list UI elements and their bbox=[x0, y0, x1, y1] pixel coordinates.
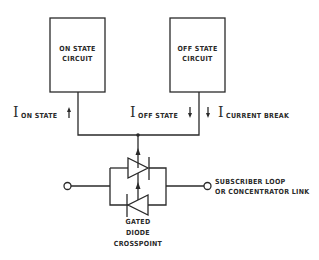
svg-text:ON STATE: ON STATE bbox=[21, 112, 57, 120]
svg-text:I: I bbox=[218, 104, 224, 120]
i-off-state: I OFF STATE bbox=[130, 104, 192, 120]
svg-text:OFF STATE: OFF STATE bbox=[138, 112, 178, 120]
off-state-label-1: OFF STATE bbox=[177, 45, 217, 53]
on-state-label-1: ON STATE bbox=[59, 45, 95, 53]
svg-text:I: I bbox=[130, 104, 136, 120]
i-current-break: I CURRENT BREAK bbox=[206, 104, 290, 120]
bus-wires bbox=[78, 92, 199, 168]
i-on-state: I ON STATE bbox=[13, 104, 71, 120]
left-terminal-icon bbox=[64, 183, 71, 190]
on-state-label-2: CIRCUIT bbox=[62, 55, 93, 63]
on-state-circuit-box: ON STATE CIRCUIT bbox=[50, 18, 105, 92]
gate-arrow-icon bbox=[136, 148, 141, 155]
arrow-down-icon bbox=[206, 107, 210, 118]
svg-text:I: I bbox=[13, 104, 19, 120]
crosspoint-label-2: DIODE bbox=[126, 229, 150, 237]
right-terminal-icon bbox=[204, 183, 211, 190]
off-state-circuit-box: OFF STATE CIRCUIT bbox=[170, 18, 225, 92]
svg-text:SUBSCRIBER LOOP: SUBSCRIBER LOOP bbox=[215, 178, 286, 186]
arrow-up-icon bbox=[67, 107, 71, 118]
right-terminal-label: SUBSCRIBER LOOP OR CONCENTRATOR LINK bbox=[215, 178, 310, 196]
crosspoint-label-3: CROSSPOINT bbox=[114, 240, 163, 248]
junction-dot bbox=[136, 133, 140, 137]
off-state-label-2: CIRCUIT bbox=[182, 55, 213, 63]
arrow-down-icon bbox=[188, 107, 192, 118]
gated-diode-crosspoint: GATED DIODE CROSSPOINT bbox=[64, 148, 211, 248]
svg-text:OR CONCENTRATOR LINK: OR CONCENTRATOR LINK bbox=[215, 188, 310, 196]
circuit-diagram: ON STATE CIRCUIT OFF STATE CIRCUIT I ON … bbox=[0, 0, 319, 260]
crosspoint-label-1: GATED bbox=[126, 218, 151, 226]
gate-arrow-icon bbox=[136, 182, 141, 189]
svg-text:CURRENT BREAK: CURRENT BREAK bbox=[226, 112, 290, 120]
